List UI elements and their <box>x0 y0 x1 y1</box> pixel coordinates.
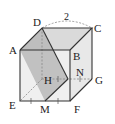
edge-length-label: 2 <box>64 11 69 22</box>
vertex-label-n: N <box>76 66 84 78</box>
vertex-label-b: B <box>73 50 80 62</box>
vertex-label-e: E <box>9 99 16 111</box>
vertex-label-a: A <box>9 44 17 56</box>
vertex-label-c: C <box>94 22 101 34</box>
vertex-label-f: F <box>74 103 80 115</box>
dimension-arc <box>42 21 92 28</box>
cube-diagram: D C A B H N G E M F 2 <box>0 0 115 124</box>
vertex-label-m: M <box>40 103 50 115</box>
vertex-label-d: D <box>33 16 41 28</box>
vertex-label-g: G <box>95 74 103 86</box>
vertex-label-h: H <box>44 74 52 86</box>
